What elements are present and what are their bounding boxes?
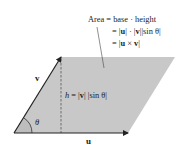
line3-post: | [138, 39, 140, 48]
area-formula-line2: = |u| · |v||sin θ| [112, 28, 161, 36]
line2-mid: | · | [125, 27, 135, 36]
area-formula-line1: Area = base · height [88, 16, 156, 24]
vector-u-label: u [86, 137, 91, 146]
area-formula-line3: = |u × v| [112, 40, 140, 48]
line3-pre: = | [112, 39, 121, 48]
theta-label: θ [35, 118, 39, 127]
height-eq: = | [69, 91, 80, 100]
line2-pre: = | [112, 27, 121, 36]
line2-post: ||sin θ| [140, 27, 161, 36]
height-formula: h = |v| |sin θ| [65, 92, 107, 100]
line3-mid: × [125, 39, 134, 48]
height-rest: | |sin θ| [84, 91, 107, 100]
vector-v-label: v [35, 74, 40, 83]
